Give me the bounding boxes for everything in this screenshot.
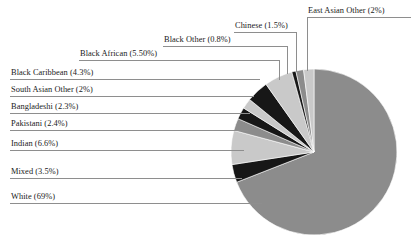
leader-line-chinese-h <box>234 32 296 33</box>
leader-line-black-other-h <box>163 46 287 47</box>
leader-line-south-asian-other-h <box>10 96 254 97</box>
slice-label-pakistani: Pakistani (2.4%) <box>11 120 68 128</box>
slice-label-south-asian-other: South Asian Other (2%) <box>11 86 93 94</box>
slice-label-black-african: Black African (5.50%) <box>80 50 157 58</box>
leader-line-pakistani-h <box>10 130 248 131</box>
slice-label-black-caribbean: Black Caribbean (4.3%) <box>11 69 93 77</box>
slice-label-chinese: Chinese (1.5%) <box>235 22 288 30</box>
leader-line-mixed-h <box>10 178 242 179</box>
leader-line-black-african-v <box>279 60 280 80</box>
leader-line-black-african-h <box>79 60 279 61</box>
leader-line-indian-h <box>10 150 244 151</box>
leader-line-chinese-v <box>296 32 297 72</box>
leader-line-bangladeshi-h <box>10 113 250 114</box>
leader-line-east-asian-other-h <box>307 17 411 18</box>
slice-label-white: White (69%) <box>11 193 55 201</box>
slice-label-black-other: Black Other (0.8%) <box>164 36 231 44</box>
leader-line-east-asian-other-v <box>307 17 308 71</box>
leader-line-white-h <box>10 203 262 204</box>
leader-line-black-other-v <box>287 46 288 74</box>
leader-line-black-caribbean-h <box>10 79 260 80</box>
slice-label-east-asian-other: East Asian Other (2%) <box>308 7 385 15</box>
slice-label-bangladeshi: Bangladeshi (2.3%) <box>11 103 78 111</box>
slice-label-mixed: Mixed (3.5%) <box>11 168 59 176</box>
pie-chart-figure: East Asian Other (2%) Chinese (1.5%) Bla… <box>0 0 412 246</box>
slice-label-indian: Indian (6.6%) <box>11 140 58 148</box>
